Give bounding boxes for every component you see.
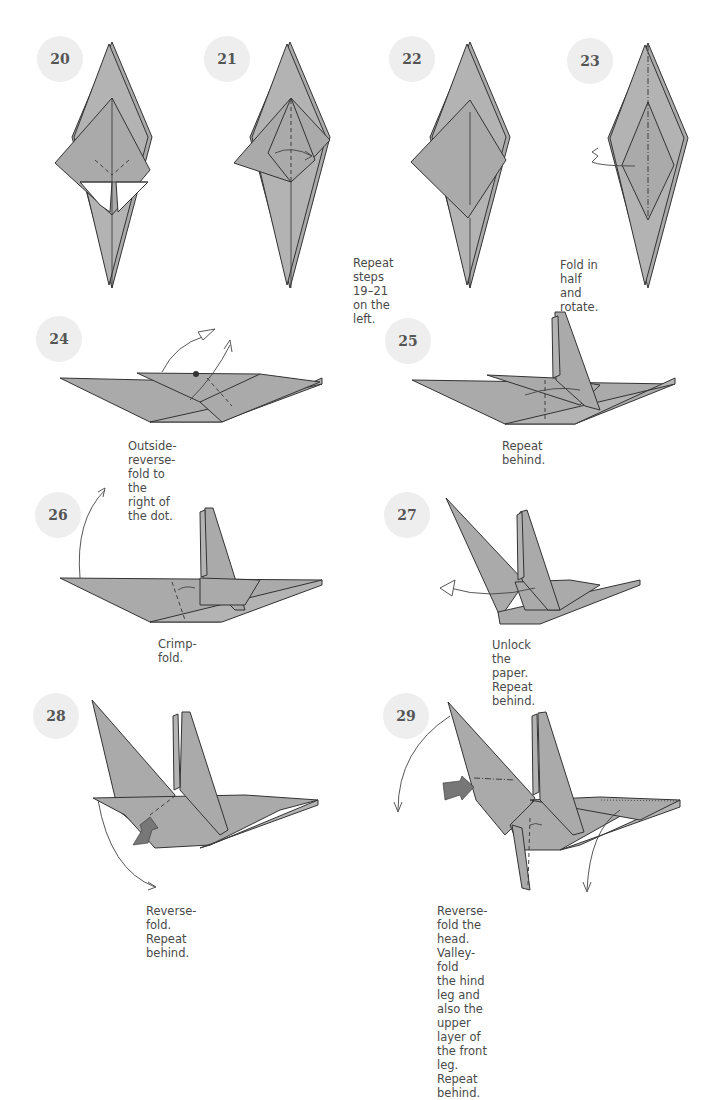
- push-arrow-icon: [443, 776, 474, 800]
- step-caption: Reverse-fold the head. Valley-fold the h…: [437, 904, 487, 1100]
